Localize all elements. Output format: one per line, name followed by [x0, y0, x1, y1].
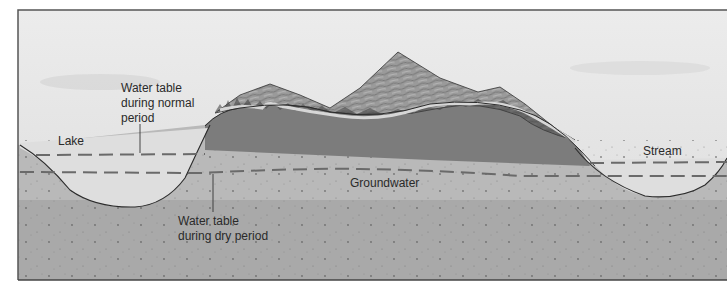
label-line: period	[121, 111, 194, 126]
label-normal-water-table: Water table during normal period	[121, 81, 194, 126]
label-groundwater: Groundwater	[350, 176, 419, 191]
label-line: Water table	[121, 81, 194, 96]
label-stream: Stream	[643, 144, 682, 159]
groundwater-cross-section-diagram: Water table during normal period Lake Gr…	[0, 0, 727, 289]
label-dry-water-table: Water table during dry period	[178, 214, 268, 244]
label-lake: Lake	[58, 134, 84, 149]
label-line: during dry period	[178, 229, 268, 244]
label-line: Water table	[178, 214, 268, 229]
diagram-canvas	[0, 0, 727, 289]
label-line: during normal	[121, 96, 194, 111]
